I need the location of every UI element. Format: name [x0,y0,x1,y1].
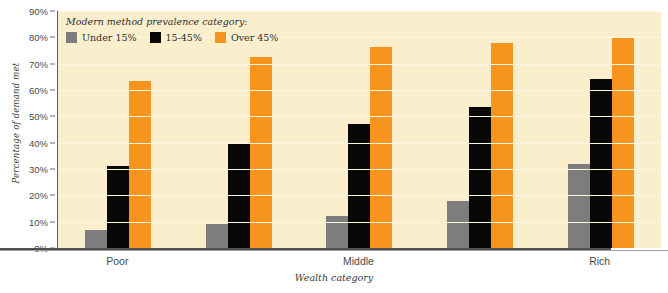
x-axis-underline [0,250,668,251]
legend-label: Over 45% [231,32,278,43]
bar [370,47,392,248]
bar [568,164,590,248]
bar-group [299,11,420,248]
x-tick-label: Rich [539,252,660,272]
legend-item[interactable]: Over 45% [215,32,278,43]
bar-chart: Percentage of demand met 90%80%70%60%50%… [0,0,668,293]
x-axis-title: Wealth category [0,272,668,283]
bar [206,224,228,248]
bar-group [420,11,541,248]
gridline [58,64,661,65]
gridline [58,90,661,91]
y-tick-label: 90% [29,6,48,17]
bar [107,166,129,248]
legend-items: Under 15%15-45%Over 45% [66,32,296,43]
bar [590,79,612,248]
bar [469,107,491,248]
legend: Modern method prevalence category: Under… [66,16,296,43]
x-tick-label: Poor [57,252,178,272]
y-tick-mark [50,221,55,222]
y-tick-mark [50,195,55,196]
bar-groups [58,11,661,248]
bar [129,81,151,248]
gridline [58,143,661,144]
y-tick-label: 20% [29,190,48,201]
x-axis-tick-labels: PoorMiddleRich [57,252,660,272]
y-tick-mark [50,37,55,38]
y-tick-label: 40% [29,137,48,148]
gridline [58,195,661,196]
bar-group [179,11,300,248]
x-tick-label [178,252,299,272]
gridline [58,222,661,223]
y-tick-label: 30% [29,164,48,175]
y-tick-mark [50,116,55,117]
plot-area [57,11,661,248]
y-tick-label: 50% [29,111,48,122]
bar [85,230,107,248]
legend-label: Under 15% [82,32,137,43]
y-tick-label: 10% [29,216,48,227]
y-tick-mark [50,90,55,91]
bar-group [58,11,179,248]
y-tick-mark [50,142,55,143]
legend-title: Modern method prevalence category: [66,16,296,27]
y-tick-label: 70% [29,58,48,69]
bar [250,57,272,248]
x-tick-label: Middle [298,252,419,272]
bar [447,201,469,248]
gridline [58,169,661,170]
legend-item[interactable]: Under 15% [66,32,137,43]
legend-swatch-icon [150,32,161,43]
y-tick-label: 60% [29,85,48,96]
gridline [58,116,661,117]
y-tick-mark [50,63,55,64]
legend-item[interactable]: 15-45% [150,32,202,43]
bar [491,43,513,248]
y-tick-mark [50,169,55,170]
x-tick-label [419,252,540,272]
legend-swatch-icon [215,32,226,43]
gridline [58,11,661,12]
y-tick-label: 80% [29,32,48,43]
bar-group [540,11,661,248]
y-tick-mark [50,11,55,12]
legend-label: 15-45% [166,32,202,43]
legend-swatch-icon [66,32,77,43]
